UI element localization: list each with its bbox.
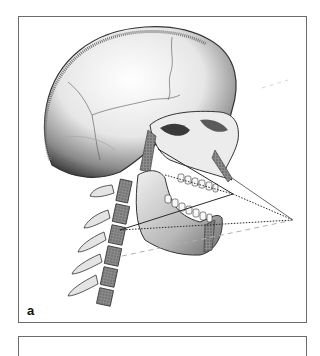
figure-panel-b-top-edge bbox=[18, 336, 307, 356]
upper-teeth bbox=[178, 174, 218, 192]
cervical-spine bbox=[68, 179, 132, 306]
